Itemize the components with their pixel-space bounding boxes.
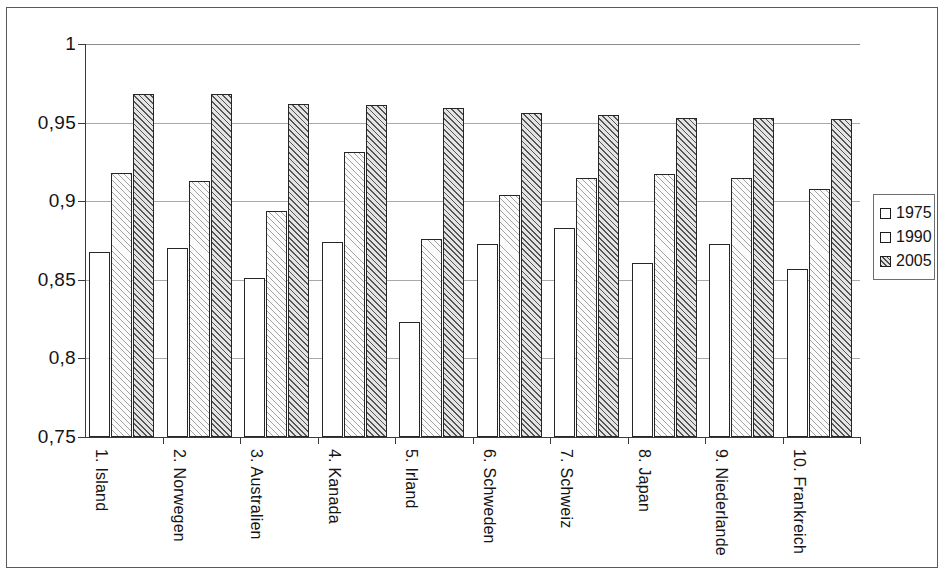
bar-group	[399, 44, 464, 437]
bar	[421, 239, 442, 437]
bar-group	[709, 44, 774, 437]
x-axis-category-label: 4. Kanada	[326, 449, 342, 579]
bar	[499, 195, 520, 437]
x-axis-category-label: 1. Island	[93, 449, 109, 579]
x-axis-tick-mark	[318, 437, 319, 444]
empty-square-swatch-icon	[880, 208, 891, 219]
bar-group	[167, 44, 232, 437]
x-axis-category-label: 10. Frankreich	[791, 449, 807, 579]
x-axis-tick-mark	[240, 437, 241, 444]
y-axis-tick-mark	[78, 437, 86, 438]
bar	[111, 173, 132, 437]
x-axis-category-label: 7. Schweiz	[558, 449, 574, 579]
y-axis-tick-label: 0,9	[16, 191, 76, 210]
bar	[133, 94, 154, 437]
y-axis-tick-label: 0,8	[16, 348, 76, 367]
x-axis-tick-mark	[628, 437, 629, 444]
legend-label: 2005	[896, 253, 932, 269]
bar	[344, 152, 365, 437]
x-axis-category-label: 2. Norwegen	[171, 449, 187, 579]
bar	[477, 244, 498, 437]
x-axis-tick-mark	[860, 437, 861, 444]
legend-label: 1990	[896, 229, 932, 245]
legend-item-2005: 2005	[880, 249, 929, 273]
x-axis-category-label: 9. Niederlande	[713, 449, 729, 579]
bar	[288, 104, 309, 437]
bar	[366, 105, 387, 437]
y-axis-tick-label: 0,75	[16, 427, 76, 446]
bar	[399, 322, 420, 437]
bar	[521, 113, 542, 437]
bar	[809, 189, 830, 437]
bar	[266, 211, 287, 437]
x-axis-category-label: 5. Irland	[403, 449, 419, 579]
bar	[731, 178, 752, 437]
x-axis-tick-mark	[550, 437, 551, 444]
bar-group	[787, 44, 852, 437]
bar-group	[632, 44, 697, 437]
x-axis-category-label: 6. Schweden	[481, 449, 497, 579]
legend: 1975 1990 2005	[873, 194, 935, 280]
legend-item-1990: 1990	[880, 225, 929, 249]
y-axis-tick-mark	[78, 201, 86, 202]
bar	[554, 228, 575, 437]
bar	[676, 118, 697, 437]
bar	[576, 178, 597, 437]
y-axis-tick-label: 0,95	[16, 113, 76, 132]
x-axis-tick-mark	[473, 437, 474, 444]
bar	[443, 108, 464, 437]
bar	[244, 278, 265, 437]
grouped-bar-chart: 0,750,80,850,90,951 1975 1990 2005 1. Is…	[0, 0, 946, 579]
y-axis-tick-label: 1	[16, 34, 76, 53]
bar	[89, 252, 110, 437]
bar	[189, 181, 210, 437]
x-axis-category-label: 3. Australien	[248, 449, 264, 579]
bar	[831, 119, 852, 437]
bar	[654, 174, 675, 437]
bar	[709, 244, 730, 437]
bar-group	[244, 44, 309, 437]
y-axis-tick-mark	[78, 44, 86, 45]
bar	[632, 263, 653, 437]
legend-item-1975: 1975	[880, 201, 929, 225]
x-axis-tick-mark	[783, 437, 784, 444]
bar-group	[477, 44, 542, 437]
bar	[598, 115, 619, 437]
x-axis-tick-mark	[395, 437, 396, 444]
x-axis-tick-mark	[163, 437, 164, 444]
light-hatch-square-swatch-icon	[880, 232, 891, 243]
bar-group	[89, 44, 154, 437]
dark-hatch-square-swatch-icon	[880, 256, 891, 267]
x-axis-tick-mark	[705, 437, 706, 444]
y-axis-tick-label: 0,85	[16, 270, 76, 289]
bar	[167, 248, 188, 437]
bar	[753, 118, 774, 437]
bar	[322, 242, 343, 437]
y-axis-tick-mark	[78, 123, 86, 124]
x-axis-category-label: 8. Japan	[636, 449, 652, 579]
bar	[211, 94, 232, 437]
y-axis: 0,750,80,850,90,951	[10, 0, 76, 579]
bar-group	[322, 44, 387, 437]
bar-group	[554, 44, 619, 437]
legend-label: 1975	[896, 205, 932, 221]
bar	[787, 269, 808, 437]
y-axis-tick-mark	[78, 280, 86, 281]
y-axis-tick-mark	[78, 358, 86, 359]
